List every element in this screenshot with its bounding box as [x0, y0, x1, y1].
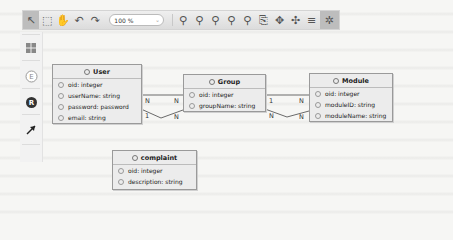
attribute-label: oid: integer [325, 90, 360, 97]
attribute-icon [58, 115, 64, 121]
attribute-icon [118, 179, 124, 185]
cardinality-label: N [269, 112, 274, 120]
attribute-icon [58, 93, 64, 99]
entity-header: User [53, 65, 141, 79]
entity-icon [333, 78, 339, 84]
entity-icon [84, 69, 90, 75]
entity-title: Module [342, 77, 369, 85]
entity-title: User [93, 68, 110, 76]
cardinality-label: N [174, 113, 179, 121]
key-attribute-icon [118, 168, 124, 174]
attribute-row[interactable]: oid: integer [113, 165, 196, 176]
cardinality-label: N [299, 97, 304, 105]
attribute-label: oid: integer [199, 91, 234, 98]
attribute-row[interactable]: moduleID: string [310, 99, 392, 110]
attribute-label: oid: integer [128, 167, 163, 174]
cardinality-label: N [299, 113, 304, 121]
cardinality-label: 1 [145, 112, 149, 120]
entity-title: complaint [141, 154, 177, 162]
attribute-row[interactable]: password: password [53, 101, 141, 112]
cardinality-label: N [145, 97, 150, 105]
attribute-row[interactable]: email: string [53, 112, 141, 123]
entity-icon [132, 155, 138, 161]
attribute-row[interactable]: oid: integer [184, 89, 265, 100]
attribute-label: email: string [68, 114, 106, 121]
cardinality-label: 1 [269, 97, 273, 105]
key-attribute-icon [58, 82, 64, 88]
attribute-icon [58, 104, 64, 110]
key-attribute-icon [315, 91, 321, 97]
attribute-label: password: password [68, 103, 129, 110]
attribute-row[interactable]: groupName: string [184, 100, 265, 111]
attribute-row[interactable]: userName: string [53, 90, 141, 101]
attribute-label: userName: string [68, 92, 120, 99]
attribute-row[interactable]: oid: integer [310, 88, 392, 99]
entity-icon [209, 79, 215, 85]
attribute-row[interactable]: description: string [113, 176, 196, 187]
attribute-label: moduleID: string [325, 101, 375, 108]
attribute-label: groupName: string [199, 102, 255, 109]
attribute-icon [189, 103, 195, 109]
entity-header: Module [310, 74, 392, 88]
attribute-row[interactable]: oid: integer [53, 79, 141, 90]
cardinality-label: N [174, 97, 179, 105]
attribute-label: oid: integer [68, 81, 103, 88]
entity-header: complaint [113, 151, 196, 165]
key-attribute-icon [189, 92, 195, 98]
entity-group[interactable]: Group oid: integer groupName: string [183, 74, 266, 112]
entity-module[interactable]: Module oid: integer moduleID: string mod… [309, 73, 393, 122]
attribute-row[interactable]: moduleName: string [310, 110, 392, 121]
attribute-icon [315, 113, 321, 119]
entity-user[interactable]: User oid: integer userName: string passw… [52, 64, 142, 124]
entity-title: Group [218, 78, 240, 86]
entity-header: Group [184, 75, 265, 89]
attribute-label: moduleName: string [325, 112, 386, 119]
attribute-icon [315, 102, 321, 108]
entity-complaint[interactable]: complaint oid: integer description: stri… [112, 150, 197, 190]
attribute-label: description: string [128, 178, 183, 185]
